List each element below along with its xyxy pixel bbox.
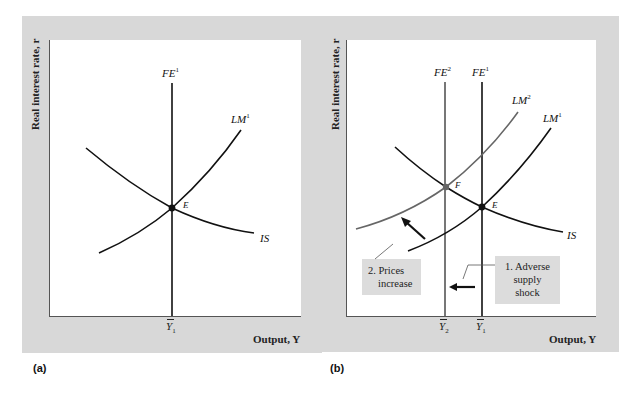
panel-b-point-f-dot: [443, 184, 449, 190]
lm-label-sup: 1: [246, 112, 250, 120]
panel-b-point-e-label: E: [492, 200, 498, 210]
fe-label-sup: 2: [447, 65, 451, 73]
panel-b-y1-bar-tick: Y1: [476, 319, 486, 335]
panel-b-lm1-label: LM1: [543, 112, 562, 124]
panel-b-fe1-label: FE1: [472, 66, 489, 78]
fe-shift-arrow-head: [449, 283, 457, 291]
lm-label-name: LM: [543, 112, 558, 124]
panel-b-point-f-label: F: [455, 180, 461, 190]
panel-b-equilibrium-e-dot: [479, 204, 486, 211]
panel-a-y1-bar-tick: Y1: [166, 319, 176, 335]
panel-b-y2-bar-tick: Y2: [439, 319, 449, 335]
lm-label-name: LM: [512, 94, 527, 106]
panel-a-lm1-label: LM1: [231, 113, 250, 125]
prices-increase-leader: [375, 244, 393, 259]
lm-label-name: LM: [231, 113, 246, 125]
panel-a-equilibrium-e-dot: [169, 205, 176, 212]
panel-a-is-curve: [86, 148, 254, 233]
tick-sub: 1: [482, 327, 486, 335]
fe-label-sup: 1: [485, 65, 489, 73]
panel-b-fe2-label: FE2: [434, 66, 451, 78]
panel-a-lm1-curve: [99, 130, 241, 253]
lm-label-sup: 1: [558, 111, 562, 119]
panel-a-is-label: IS: [260, 233, 269, 244]
fe-label-name: FE: [162, 67, 175, 79]
panel-a-point-e-label: E: [183, 200, 189, 210]
panel-b-lm2-label: LM2: [512, 94, 531, 106]
lm-shift-arrow-shaft: [406, 222, 425, 239]
panel-b-lm1-curve: [408, 128, 551, 251]
lm-label-sup: 2: [527, 93, 531, 101]
fe-label-name: FE: [434, 66, 447, 78]
panel-a-fe1-label: FE1: [162, 67, 179, 79]
fe-label-sup: 1: [175, 66, 179, 74]
tick-sub: 1: [172, 327, 176, 335]
adverse-supply-shock-leader: [463, 265, 495, 279]
tick-sub: 2: [445, 327, 449, 335]
panel-b-is-curve: [395, 147, 563, 232]
panel-b-is-label: IS: [567, 230, 576, 241]
curves-layer: [0, 0, 640, 395]
fe-label-name: FE: [472, 66, 485, 78]
